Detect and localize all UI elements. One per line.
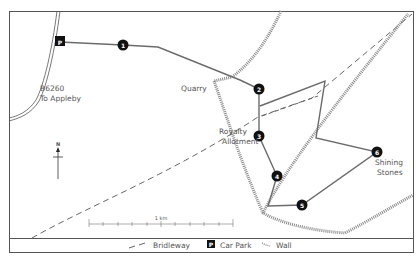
car-park-legend-symbol: P (209, 241, 214, 248)
bridleway-legend-icon (129, 243, 145, 248)
wall-legend-label: Wall (276, 241, 292, 250)
map-frame (10, 12, 414, 253)
road-destination-label: To Appleby (39, 94, 81, 103)
walking-route-map: P 1 2 3 4 5 6 B6260 To Appleby Quarry Ro… (0, 0, 420, 263)
waypoint-label: 6 (375, 149, 379, 156)
car-park-legend-label: Car Park (220, 241, 252, 250)
allotment-label-line1: Royalty (219, 127, 248, 136)
car-park-legend-icon: P (207, 240, 215, 248)
legend: Bridleway P Car Park Wall (129, 240, 292, 250)
bridleway-path (32, 14, 412, 238)
bridleway-legend-label: Bridleway (153, 241, 191, 250)
waypoint-label: 2 (257, 86, 261, 93)
shining-stones-label-line2: Stones (377, 168, 403, 177)
scale-label: 1 km (155, 215, 168, 221)
car-park-symbol: P (58, 39, 63, 46)
waypoint-label: 5 (300, 202, 304, 209)
north-arrow: N (53, 141, 63, 179)
waypoint-1: 1 (118, 40, 129, 51)
waypoint-label: 4 (275, 173, 279, 180)
wall-lines (214, 11, 413, 233)
road-b6260 (9, 11, 60, 121)
wall-legend-icon (262, 243, 270, 246)
waypoint-label: 1 (121, 42, 125, 49)
waypoint-6: 6 (372, 147, 383, 158)
road-number-label: B6260 (40, 84, 64, 93)
shining-stones-label-line1: Shining (375, 158, 403, 167)
walking-route (60, 42, 377, 206)
waypoint-5: 5 (297, 200, 308, 211)
waypoint-4: 4 (272, 171, 283, 182)
north-label: N (56, 141, 60, 147)
waypoint-2: 2 (254, 84, 265, 95)
allotment-label-line2: Allotment (222, 137, 259, 146)
quarry-label: Quarry (181, 84, 207, 93)
car-park-marker: P (55, 36, 65, 46)
